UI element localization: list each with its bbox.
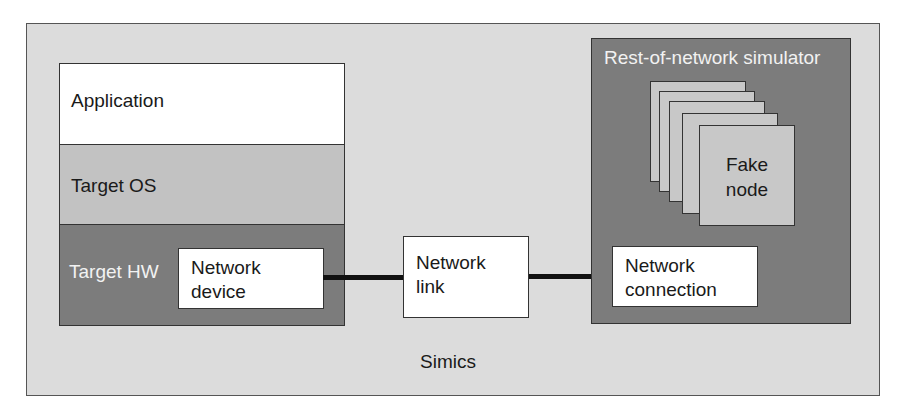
network-link-line2: link bbox=[416, 275, 516, 299]
network-device-line2: device bbox=[191, 280, 311, 304]
application-layer: Application bbox=[59, 63, 345, 145]
network-connection-line1: Network bbox=[625, 254, 745, 278]
simics-label: Simics bbox=[420, 351, 476, 373]
network-connection-line2: connection bbox=[625, 278, 745, 302]
fake-node-line1: Fake bbox=[700, 152, 794, 177]
network-connection-box: Network connection bbox=[612, 246, 758, 307]
network-link-box: Network link bbox=[403, 236, 529, 318]
link-line-left bbox=[323, 275, 404, 280]
target-os-layer: Target OS bbox=[59, 144, 345, 225]
application-label: Application bbox=[71, 90, 164, 112]
network-device-line1: Network bbox=[191, 256, 311, 280]
rest-of-network-title: Rest-of-network simulator bbox=[604, 47, 820, 69]
target-hw-label: Target HW bbox=[69, 261, 159, 283]
network-link-line1: Network bbox=[416, 251, 516, 275]
fake-node-card-front: Fake node bbox=[699, 125, 795, 226]
network-device-box: Network device bbox=[178, 248, 324, 309]
target-os-label: Target OS bbox=[71, 175, 157, 197]
fake-node-line2: node bbox=[700, 177, 794, 202]
